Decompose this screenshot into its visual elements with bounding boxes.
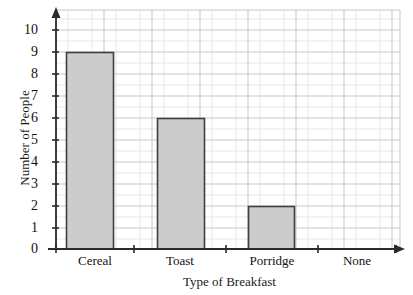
x-category-label-none: None [318,253,396,269]
y-tick-label-6: 6 [12,111,38,125]
y-tick-label-10: 10 [12,23,38,37]
y-tick-label-3: 3 [12,177,38,191]
y-tick-label-2: 2 [12,199,38,213]
y-tick-label-7: 7 [12,89,38,103]
y-axis-arrow-icon [52,7,61,18]
x-axis-title: Type of Breakfast [56,274,403,290]
x-category-label-toast: Toast [134,253,226,269]
y-tick-label-5: 5 [12,133,38,147]
y-tick-label-1: 1 [12,221,38,235]
y-tick-label-4: 4 [12,155,38,169]
x-category-label-cereal: Cereal [56,253,134,269]
y-tick-label-9: 9 [12,45,38,59]
bar-toast [158,119,205,250]
bar-porridge [249,207,295,250]
chart-plot-area [0,0,413,295]
bar-cereal [67,53,114,250]
y-tick-label-8: 8 [12,67,38,81]
x-category-label-porridge: Porridge [226,253,318,269]
y-tick-label-0: 0 [12,242,38,256]
bar-chart: Number of People Type of Breakfast 10 9 … [0,0,413,295]
